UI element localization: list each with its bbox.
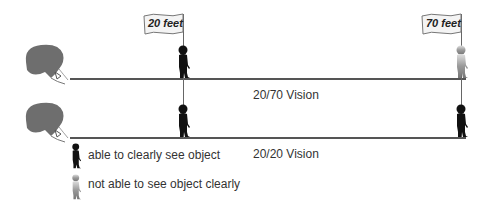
legend-clear-label: able to clearly see object [88, 148, 220, 162]
legend-blurry-label: not able to see object clearly [88, 177, 240, 191]
caption-20-70-vision: 20/70 Vision [253, 88, 319, 102]
flag-label-70: 70 feet [426, 17, 461, 29]
clear-child-figure-icon [177, 45, 191, 79]
clear-child-figure-icon [455, 104, 469, 138]
caption-20-20-vision: 20/20 Vision [253, 147, 319, 161]
viewer-head-icon [20, 100, 72, 145]
clear-child-figure-icon [177, 104, 191, 138]
distance-line-top [70, 78, 466, 80]
legend-clear-figure-icon [71, 143, 82, 169]
legend-blurry-figure-icon [71, 174, 82, 200]
viewer-head-icon [20, 42, 72, 87]
flag-label-20: 20 feet [148, 17, 183, 29]
distance-line-bottom [70, 137, 466, 139]
blurry-child-figure-icon [455, 45, 469, 79]
